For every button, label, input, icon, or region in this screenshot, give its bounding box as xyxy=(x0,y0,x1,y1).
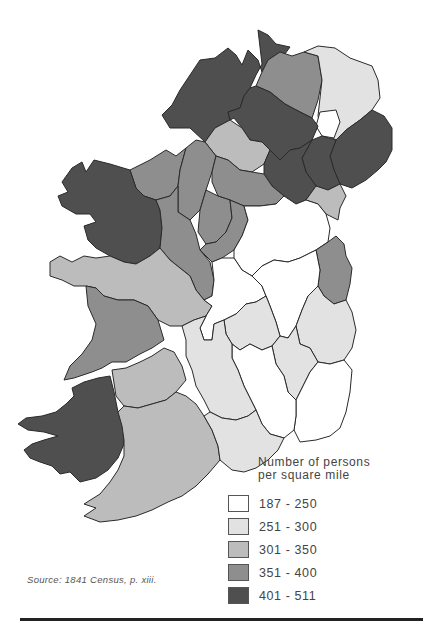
legend-title-line2: per square mile xyxy=(258,469,428,482)
legend-label: 187 - 250 xyxy=(259,497,317,511)
legend-item: 401 - 511 xyxy=(228,584,428,607)
legend-label: 251 - 300 xyxy=(259,520,317,534)
legend-item: 251 - 300 xyxy=(228,515,428,538)
legend-swatch xyxy=(228,564,249,581)
legend-label: 351 - 400 xyxy=(259,566,317,580)
legend-item: 187 - 250 xyxy=(228,492,428,515)
legend-swatch xyxy=(228,541,249,558)
legend-title: Number of persons per square mile xyxy=(258,456,428,482)
legend-label: 401 - 511 xyxy=(259,589,316,603)
region-kerry xyxy=(18,376,124,482)
legend: Number of persons per square mile 187 - … xyxy=(258,456,428,607)
source-note: Source: 1841 Census, p. xiii. xyxy=(27,574,157,585)
legend-swatch xyxy=(228,587,249,604)
bottom-rule xyxy=(20,618,423,621)
legend-item: 301 - 350 xyxy=(228,538,428,561)
legend-swatch xyxy=(228,518,249,535)
legend-item: 351 - 400 xyxy=(228,561,428,584)
legend-swatch xyxy=(228,495,249,512)
legend-label: 301 - 350 xyxy=(259,543,317,557)
